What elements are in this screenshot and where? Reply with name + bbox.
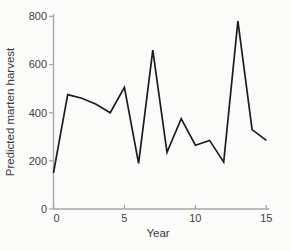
y-tick-label: 800	[29, 10, 47, 22]
harvest-data-line	[54, 21, 267, 173]
x-tick-label: 0	[53, 212, 59, 224]
y-tick-label: 600	[29, 58, 47, 70]
x-axis-title: Year	[146, 227, 169, 239]
x-tick-label: 10	[189, 212, 201, 224]
y-tick-label: 0	[41, 203, 47, 215]
x-tick-label: 15	[260, 212, 272, 224]
line-chart: 0200400600800051015 Year Predicted marte…	[0, 0, 290, 251]
chart-figure: 0200400600800051015 Year Predicted marte…	[0, 0, 290, 251]
plot-layer	[54, 21, 267, 173]
y-axis-title: Predicted marten harvest	[4, 47, 16, 176]
x-tick-label: 5	[121, 212, 127, 224]
y-tick-label: 200	[29, 155, 47, 167]
y-tick-label: 400	[29, 107, 47, 119]
